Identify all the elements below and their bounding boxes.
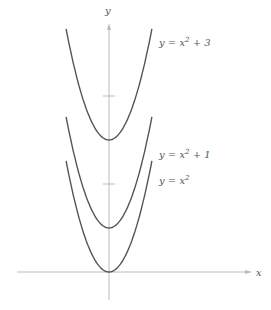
label-x2-plus-3: y = x2 + 3 bbox=[158, 36, 211, 48]
y-axis-arrow-icon bbox=[107, 23, 111, 30]
label-x2: y = x2 bbox=[158, 174, 190, 186]
chart: x y y = x2 + 3 y = x2 + 1 y = x2 bbox=[0, 0, 271, 310]
label-x2-plus-1: y = x2 + 1 bbox=[158, 148, 211, 160]
x-axis-arrow-icon bbox=[245, 270, 252, 274]
x-axis-label: x bbox=[256, 267, 262, 278]
y-axis-label: y bbox=[104, 5, 111, 16]
